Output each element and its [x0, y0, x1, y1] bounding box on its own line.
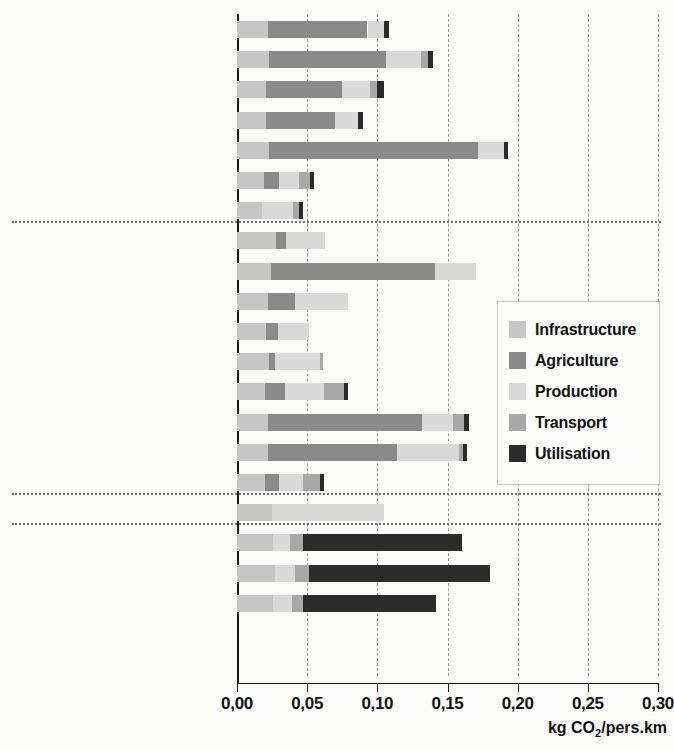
bar-segment-utilisation — [310, 172, 314, 189]
x-axis-tick-label: 0,20 — [502, 694, 534, 714]
group-separator — [12, 523, 661, 525]
x-axis-title-suffix: /pers.km — [601, 719, 667, 736]
bar-segment-production — [273, 595, 291, 612]
x-axis-tick-label: 0,00 — [221, 694, 253, 714]
bar-segment-infrastructure — [237, 142, 269, 159]
x-axis-tick-label: 0,10 — [361, 694, 393, 714]
bar-segment-utilisation — [377, 81, 384, 98]
bar-segment-production — [275, 565, 295, 582]
legend-swatch-icon — [509, 352, 526, 369]
bar-segment-utilisation — [344, 383, 348, 400]
bar-segment-infrastructure — [237, 202, 262, 219]
legend-item: Utilisation — [509, 438, 659, 469]
bar-segment-production — [422, 414, 453, 431]
bar-segment-agriculture — [266, 112, 335, 129]
bar-segment-utilisation — [464, 414, 468, 431]
x-axis-tick — [377, 683, 378, 692]
bar-segment-infrastructure — [237, 263, 271, 280]
bar-segment-production — [272, 504, 384, 521]
legend-label: Transport — [535, 414, 607, 432]
legend-label: Utilisation — [535, 445, 610, 463]
bar-segment-infrastructure — [237, 293, 268, 310]
bar-segment-transport — [324, 383, 344, 400]
bar-segment-production — [262, 202, 293, 219]
legend-item: Agriculture — [509, 345, 659, 376]
chart-row: Diesel, CH — [237, 527, 658, 557]
bar-segment-production — [279, 172, 299, 189]
bar-segment-agriculture — [269, 142, 478, 159]
chart-row: Biodiesel, palmier à huile, MY — [237, 74, 658, 104]
bar-segment-utilisation — [504, 142, 508, 159]
legend-swatch-icon — [509, 321, 526, 338]
bar-segment-production — [275, 353, 320, 370]
bar-segment-production — [278, 323, 309, 340]
bar-segment-infrastructure — [237, 383, 265, 400]
x-axis-tick — [307, 683, 308, 692]
bar-segment-agriculture — [264, 172, 279, 189]
bar-segment-infrastructure — [237, 414, 268, 431]
chart-row: Gaz naturel, CH — [237, 588, 658, 618]
legend-item: Production — [509, 376, 659, 407]
bar-segment-utilisation — [303, 595, 436, 612]
bar-segment-infrastructure — [237, 595, 273, 612]
bar-segment-agriculture — [268, 293, 295, 310]
legend-item: Infrastructure — [509, 314, 659, 345]
bar-segment-transport — [299, 172, 310, 189]
chart-legend: InfrastructureAgricultureProductionTrans… — [497, 301, 660, 485]
bar-segment-agriculture — [266, 81, 342, 98]
bar-segment-agriculture — [266, 323, 277, 340]
bar-segment-production — [295, 293, 348, 310]
bar-segment-agriculture — [265, 474, 279, 491]
x-axis-title: kg CO2/pers.km — [548, 719, 667, 739]
group-separator — [12, 493, 661, 495]
bar-segment-agriculture — [265, 383, 285, 400]
bar-segment-utilisation — [463, 444, 467, 461]
bar-segment-production — [368, 21, 385, 38]
group-separator — [12, 221, 661, 223]
chart-row: Biodiesel, colza, EU — [237, 44, 658, 74]
bar-segment-infrastructure — [237, 534, 273, 551]
x-axis-tick — [658, 683, 659, 692]
legend-label: Production — [535, 383, 617, 401]
bar-segment-utilisation — [358, 112, 364, 129]
bar-segment-agriculture — [268, 21, 368, 38]
x-axis-tick — [237, 683, 238, 692]
bar-segment-utilisation — [309, 565, 490, 582]
bar-segment-production — [478, 142, 503, 159]
chart-row: Bioéthanol, pommes de terre, CH — [237, 256, 658, 286]
bar-segment-transport — [370, 81, 377, 98]
x-axis-title-prefix: kg CO — [548, 719, 595, 736]
bar-segment-infrastructure — [237, 232, 276, 249]
bar-segment-agriculture — [268, 414, 422, 431]
chart-row: Biodiesel, huiles usagées, CH — [237, 165, 658, 195]
bar-segment-utilisation — [384, 21, 388, 38]
bar-segment-infrastructure — [237, 81, 266, 98]
bar-segment-utilisation — [428, 51, 434, 68]
bar-segment-transport — [295, 565, 309, 582]
x-axis-tick-label: 0,25 — [572, 694, 604, 714]
x-axis-tick-label: 0,30 — [642, 694, 674, 714]
bar-segment-agriculture — [271, 263, 435, 280]
bar-segment-infrastructure — [237, 504, 272, 521]
legend-label: Infrastructure — [535, 321, 636, 339]
bar-segment-production — [397, 444, 459, 461]
bar-segment-transport — [290, 534, 303, 551]
bar-segment-transport — [320, 353, 323, 370]
bar-segment-infrastructure — [237, 323, 266, 340]
bar-segment-transport — [453, 414, 464, 431]
bar-segment-production — [286, 232, 325, 249]
bar-segment-production — [342, 81, 370, 98]
bar-segment-production — [273, 534, 290, 551]
bar-segment-infrastructure — [237, 353, 269, 370]
x-axis-tick — [588, 683, 589, 692]
legend-label: Agriculture — [535, 352, 618, 370]
bar-segment-agriculture — [269, 51, 385, 68]
bar-segment-infrastructure — [237, 112, 266, 129]
bar-segment-infrastructure — [237, 565, 275, 582]
bar-segment-agriculture — [268, 444, 397, 461]
legend-item: Transport — [509, 407, 659, 438]
bar-segment-utilisation — [303, 534, 462, 551]
chart-row: Biodiesel, soja, US — [237, 105, 658, 135]
x-axis-tick-label: 0,05 — [291, 694, 323, 714]
